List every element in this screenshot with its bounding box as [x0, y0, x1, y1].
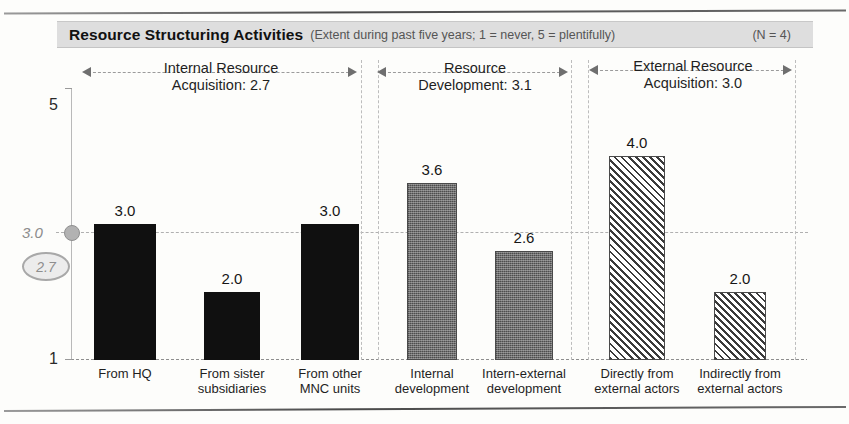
category-label-6: Directly fromexternal actors: [585, 366, 689, 396]
bottom-rule: [4, 406, 846, 412]
y-axis-label-top: 5: [28, 96, 58, 114]
bar-value-label-5: 2.6: [498, 229, 550, 246]
mean-annotation-oval: 2.7: [22, 252, 70, 281]
y-tick-1: [65, 359, 72, 360]
category-label-2: From sistersubsidiaries: [180, 366, 284, 396]
reference-value-label: 3.0: [22, 224, 43, 241]
plot-area: [72, 88, 806, 360]
bar-2[interactable]: [204, 292, 260, 360]
category-label-5: Intern-externaldevelopment: [472, 366, 576, 396]
bar-7[interactable]: [714, 292, 766, 360]
group-title-3-line1: External Resource: [592, 58, 794, 75]
bar-3[interactable]: [301, 224, 359, 360]
sample-size-label: (N = 4): [752, 28, 791, 42]
bar-6[interactable]: [609, 156, 665, 360]
title-banner: Resource Structuring Activities (Extent …: [57, 21, 813, 48]
bar-5[interactable]: [495, 251, 553, 360]
top-rule: [4, 9, 846, 14]
category-label-3: From otherMNC units: [278, 366, 382, 396]
bar-value-label-6: 4.0: [611, 134, 663, 151]
bar-1[interactable]: [94, 224, 156, 360]
category-label-1: From HQ: [73, 366, 177, 381]
group-title-3: External Resource Acquisition: 3.0: [592, 58, 794, 92]
bar-value-label-4: 3.6: [406, 161, 458, 178]
bar-value-label-1: 3.0: [99, 202, 151, 219]
page-title: Resource Structuring Activities: [69, 26, 303, 44]
figure-container: Resource Structuring Activities (Extent …: [0, 0, 849, 424]
bar-value-label-3: 3.0: [304, 202, 356, 219]
category-label-7: Indirectly fromexternal actors: [688, 366, 792, 396]
y-axis-label-bottom: 1: [28, 350, 58, 368]
group-title-2-line1: Resource: [380, 60, 570, 77]
title-subtitle: (Extent during past five years; 1 = neve…: [310, 28, 615, 42]
group-title-1-line1: Internal Resource: [85, 60, 357, 77]
y-tick-5: [65, 88, 72, 89]
bar-value-label-7: 2.0: [714, 270, 766, 287]
bar-value-label-2: 2.0: [206, 270, 258, 287]
category-label-4: Internaldevelopment: [380, 366, 484, 396]
bar-4[interactable]: [407, 183, 457, 360]
